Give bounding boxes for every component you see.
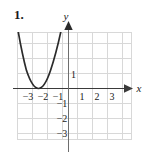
y-tick-label-neg3: −3 bbox=[57, 128, 68, 139]
x-tick-label-neg3: −3 bbox=[23, 91, 34, 102]
graph-figure: 1. bbox=[0, 0, 151, 156]
y-tick-label-neg2: −2 bbox=[57, 113, 68, 124]
x-tick-labels-positive: 1 2 3 bbox=[80, 91, 115, 102]
y-tick-labels-negative: −1 −2 −3 bbox=[57, 98, 68, 139]
x-tick-label-2: 2 bbox=[95, 91, 100, 102]
x-tick-label-3: 3 bbox=[110, 91, 115, 102]
x-axis-label: x bbox=[136, 82, 142, 94]
coordinate-plane-plot: −3 −2 −1 1 2 3 1 −1 −2 −3 x y bbox=[0, 0, 151, 156]
parabola-curve bbox=[18, 31, 61, 89]
y-tick-label-1: 1 bbox=[71, 69, 76, 80]
y-tick-label-neg1: −1 bbox=[57, 98, 68, 109]
x-tick-label-neg2: −2 bbox=[38, 91, 49, 102]
x-tick-label-1: 1 bbox=[80, 91, 85, 102]
y-axis-label: y bbox=[63, 10, 69, 22]
y-tick-labels-positive: 1 bbox=[71, 69, 76, 80]
